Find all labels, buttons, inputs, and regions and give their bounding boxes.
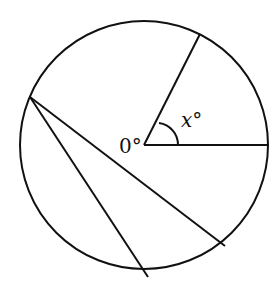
angle-label: x°	[181, 108, 202, 132]
chord-short	[30, 97, 148, 277]
center-label: 0°	[119, 134, 142, 158]
circle-diagram: 0° x°	[0, 0, 280, 297]
angle-arc	[159, 123, 178, 145]
